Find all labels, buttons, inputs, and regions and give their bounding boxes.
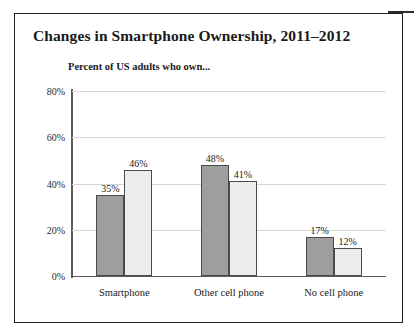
bar[interactable]: 17%	[306, 237, 334, 276]
y-axis-tick-label: 80%	[47, 86, 65, 97]
bar[interactable]: 46%	[124, 170, 152, 276]
bar-value-label: 41%	[234, 169, 252, 180]
y-axis-tick-label: 20%	[47, 224, 65, 235]
bar[interactable]: 35%	[96, 195, 124, 276]
y-axis-tick-label: 60%	[47, 132, 65, 143]
bar[interactable]: 41%	[229, 181, 257, 276]
bar-group: 35%46%Smartphone	[72, 91, 177, 276]
x-axis-tick-label: Smartphone	[99, 287, 150, 298]
chart-title: Changes in Smartphone Ownership, 2011–20…	[33, 27, 350, 45]
y-axis-tick-label: 0%	[52, 271, 65, 282]
bar[interactable]: 12%	[334, 248, 362, 276]
bar-value-label: 48%	[206, 153, 224, 164]
bar-value-label: 46%	[129, 158, 147, 169]
bar-group: 48%41%Other cell phone	[177, 91, 282, 276]
bar-value-label: 17%	[310, 225, 328, 236]
bar-pair: 17%12%	[281, 91, 386, 276]
bar[interactable]: 48%	[201, 165, 229, 276]
chart-figure-frame: Changes in Smartphone Ownership, 2011–20…	[14, 13, 403, 323]
y-axis-tick-label: 40%	[47, 178, 65, 189]
bar-group: 17%12%No cell phone	[281, 91, 386, 276]
x-axis-tick-label: No cell phone	[304, 287, 363, 298]
bar-value-label: 35%	[101, 183, 119, 194]
chart-subtitle: Percent of US adults who own...	[68, 61, 210, 72]
bar-pair: 35%46%	[72, 91, 177, 276]
bar-pair: 48%41%	[177, 91, 282, 276]
bar-value-label: 12%	[338, 236, 356, 247]
x-axis-tick-label: Other cell phone	[194, 287, 264, 298]
plot-area: 0%20%40%60%80% 35%46%Smartphone48%41%Oth…	[72, 91, 386, 276]
